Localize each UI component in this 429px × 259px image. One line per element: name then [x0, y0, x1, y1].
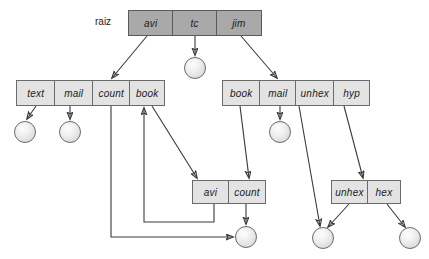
- leaf-node-tc[interactable]: [184, 57, 206, 79]
- right-cell-mail[interactable]: mail: [260, 81, 296, 105]
- edge-text-to-leaf: [27, 106, 36, 119]
- left-cell-book[interactable]: book: [130, 81, 164, 105]
- leaf-node-shared-bottom[interactable]: [235, 226, 257, 248]
- left-cell-mail[interactable]: mail: [55, 81, 93, 105]
- edge-book-right-to-avi-count: [240, 106, 249, 178]
- edge-hyp-to-unhex-hex: [344, 106, 363, 178]
- leaf-node-text[interactable]: [14, 121, 36, 143]
- leaf-node-mail-right[interactable]: [269, 121, 291, 143]
- edge-root-avi-to-left-row: [112, 36, 147, 78]
- root-caption-label: raiz: [95, 16, 111, 27]
- right-cell-book[interactable]: book: [223, 81, 260, 105]
- left-branch-node[interactable]: text mail count book: [16, 80, 165, 106]
- trie-diagram: raiz avi tc jim text mail count book boo…: [0, 0, 429, 259]
- root-cell-jim[interactable]: jim: [217, 11, 261, 35]
- left-cell-count[interactable]: count: [93, 81, 131, 105]
- edge-root-jim-to-right-row: [241, 36, 277, 78]
- avi-count-cell-count[interactable]: count: [229, 181, 265, 203]
- right-cell-hyp[interactable]: hyp: [334, 81, 369, 105]
- left-cell-text[interactable]: text: [17, 81, 55, 105]
- root-cell-avi[interactable]: avi: [129, 11, 173, 35]
- avi-count-node[interactable]: avi count: [192, 180, 266, 204]
- edge-unhex-node-to-leaf: [328, 204, 349, 227]
- edge-avi-back-to-book-left: [144, 108, 214, 222]
- root-node[interactable]: avi tc jim: [128, 10, 262, 36]
- edge-hex-node-to-leaf: [387, 204, 405, 227]
- edge-book-left-to-avi-count: [152, 106, 197, 178]
- unhex-hex-node[interactable]: unhex hex: [331, 180, 401, 204]
- edge-count-left-to-bottom-leaf: [111, 106, 233, 237]
- leaf-node-hex[interactable]: [399, 227, 421, 249]
- root-cell-tc[interactable]: tc: [173, 11, 216, 35]
- unhex-hex-cell-unhex[interactable]: unhex: [332, 181, 368, 203]
- edge-unhex-right-to-leaf: [299, 106, 320, 226]
- leaf-node-mail-left[interactable]: [59, 121, 81, 143]
- leaf-node-unhex[interactable]: [312, 227, 334, 249]
- avi-count-cell-avi[interactable]: avi: [193, 181, 229, 203]
- right-cell-unhex[interactable]: unhex: [296, 81, 334, 105]
- unhex-hex-cell-hex[interactable]: hex: [368, 181, 400, 203]
- right-branch-node[interactable]: book mail unhex hyp: [222, 80, 370, 106]
